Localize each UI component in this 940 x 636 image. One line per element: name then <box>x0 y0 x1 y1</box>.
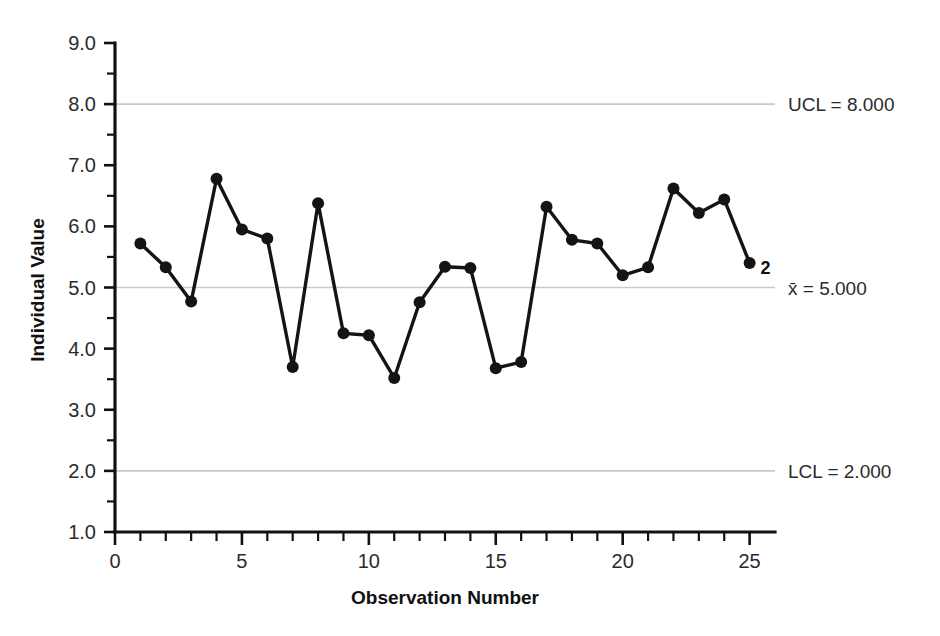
y-tick-label: 7.0 <box>68 154 96 176</box>
y-tick-label: 6.0 <box>68 215 96 237</box>
y-axis: 1.02.03.04.05.06.07.08.09.0 <box>68 32 115 543</box>
data-point-20 <box>617 269 629 281</box>
limit-label-lcl: LCL = 2.000 <box>788 461 891 482</box>
y-tick-label: 1.0 <box>68 521 96 543</box>
y-tick-label: 3.0 <box>68 399 96 421</box>
data-point-22 <box>667 182 679 194</box>
data-point-14 <box>464 262 476 274</box>
data-point-16 <box>515 356 527 368</box>
data-point-9 <box>337 327 349 339</box>
x-tick-label: 5 <box>236 550 247 572</box>
data-point-17 <box>541 201 553 213</box>
data-point-24 <box>718 193 730 205</box>
data-point-15 <box>490 362 502 374</box>
point-annotations: 2 <box>761 258 771 278</box>
y-tick-label: 4.0 <box>68 338 96 360</box>
y-tick-label: 2.0 <box>68 460 96 482</box>
data-point-10 <box>363 329 375 341</box>
data-point-1 <box>134 237 146 249</box>
limit-label-center: x̄ = 5.000 <box>788 278 867 299</box>
x-tick-label: 15 <box>485 550 507 572</box>
limit-label-ucl: UCL = 8.000 <box>788 94 895 115</box>
x-tick-label: 10 <box>358 550 380 572</box>
y-tick-label: 8.0 <box>68 93 96 115</box>
control-chart: 1.02.03.04.05.06.07.08.09.0 0510152025 U… <box>0 0 940 636</box>
annotation-violation-2: 2 <box>761 258 771 278</box>
data-point-11 <box>388 372 400 384</box>
data-point-25 <box>744 257 756 269</box>
x-tick-label: 0 <box>109 550 120 572</box>
data-point-8 <box>312 197 324 209</box>
data-point-2 <box>160 261 172 273</box>
control-limit-labels: UCL = 8.000x̄ = 5.000LCL = 2.000 <box>788 94 895 482</box>
y-tick-label: 5.0 <box>68 277 96 299</box>
data-point-18 <box>566 234 578 246</box>
x-axis: 0510152025 <box>109 532 775 572</box>
x-axis-title: Observation Number <box>351 587 540 608</box>
y-tick-label: 9.0 <box>68 32 96 54</box>
data-point-6 <box>261 233 273 245</box>
data-point-7 <box>287 361 299 373</box>
data-point-3 <box>185 296 197 308</box>
x-tick-label: 20 <box>612 550 634 572</box>
data-point-19 <box>591 237 603 249</box>
series-polyline <box>140 179 749 378</box>
data-point-13 <box>439 261 451 273</box>
data-point-23 <box>693 207 705 219</box>
data-point-12 <box>414 296 426 308</box>
data-series <box>134 173 755 384</box>
x-tick-label: 25 <box>738 550 760 572</box>
y-axis-title: Individual Value <box>27 218 48 362</box>
data-point-4 <box>211 173 223 185</box>
data-point-5 <box>236 223 248 235</box>
data-point-21 <box>642 261 654 273</box>
chart-canvas: 1.02.03.04.05.06.07.08.09.0 0510152025 U… <box>0 0 940 636</box>
gridlines-group <box>115 104 775 471</box>
